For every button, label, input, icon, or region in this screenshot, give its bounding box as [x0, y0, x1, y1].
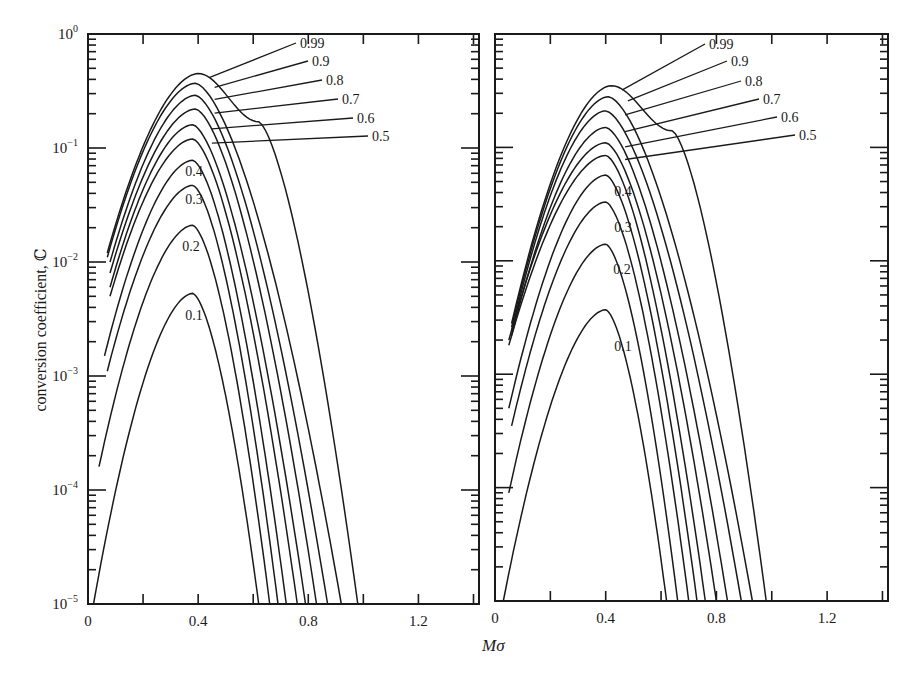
- curve-label: 0.9: [312, 54, 330, 69]
- x-tick-label: 0.4: [189, 613, 208, 629]
- curve-label: 0.1: [614, 339, 632, 354]
- curve-label: 0.9: [731, 54, 749, 69]
- x-tick-label: 0.4: [596, 610, 615, 626]
- x-tick-label: 0.8: [299, 613, 318, 629]
- curve-label: 0.2: [182, 239, 200, 254]
- curve-label: 0.1: [185, 308, 203, 323]
- x-tick-label: 1.2: [818, 610, 837, 626]
- curve-label: 0.6: [357, 111, 375, 126]
- y-tick-label: 100: [58, 23, 78, 42]
- axes-frame: [88, 34, 479, 604]
- y-tick-label: 10−4: [52, 479, 78, 498]
- curve-0.7: [110, 109, 317, 604]
- curve-0.2: [509, 244, 678, 601]
- curve-label: 0.7: [342, 92, 360, 107]
- y-tick-label: 10−5: [52, 593, 78, 612]
- curve-label: 0.3: [614, 220, 632, 235]
- x-axis-label: Mσ: [482, 636, 505, 656]
- y-tick-label: 10−1: [52, 137, 78, 156]
- y-tick-label: 10−2: [52, 251, 78, 270]
- left-panel: 00.40.81.210−510−410−310−210−11000.990.9…: [52, 23, 479, 629]
- curve-label: 0.6: [781, 110, 799, 125]
- curve-label: 0.8: [745, 74, 763, 89]
- curve-label: 0.4: [614, 184, 632, 199]
- curve-label: 0.3: [185, 192, 203, 207]
- curve-label: 0.99: [300, 36, 325, 51]
- figure: 00.40.81.210−510−410−310−210−11000.990.9…: [0, 0, 917, 681]
- curve-0.9: [512, 97, 753, 601]
- x-tick-label: 0: [84, 613, 92, 629]
- x-tick-label: 0.8: [707, 610, 726, 626]
- axes-frame: [495, 34, 888, 601]
- curve-label: 0.5: [372, 129, 390, 144]
- curve-0.6: [509, 143, 717, 601]
- curve-0.1: [94, 293, 259, 604]
- curve-0.99: [107, 74, 357, 605]
- x-tick-label: 0: [491, 610, 499, 626]
- curve-label: 0.2: [613, 262, 631, 277]
- y-tick-label: 10−3: [52, 365, 78, 384]
- curve-0.3: [512, 202, 689, 601]
- curve-label: 0.7: [763, 92, 781, 107]
- curve-label: 0.99: [709, 37, 734, 52]
- right-panel: 00.40.81.20.990.90.80.70.60.50.40.30.20.…: [491, 34, 888, 626]
- y-axis-label: conversion coefficient, ℂ: [31, 248, 50, 411]
- curve-label: 0.5: [799, 128, 817, 143]
- curve-label: 0.4: [185, 164, 203, 179]
- curve-label: 0.8: [326, 73, 344, 88]
- curve-0.1: [503, 310, 666, 601]
- x-tick-label: 1.2: [409, 613, 428, 629]
- curve-0.9: [107, 83, 341, 604]
